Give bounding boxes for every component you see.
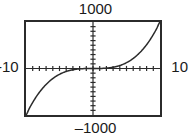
y-max-label: 1000 xyxy=(0,1,191,17)
plot-canvas xyxy=(26,22,160,115)
x-max-label: 10 xyxy=(171,59,188,75)
graphing-calculator-plot: 1000 -10 10 –1000 xyxy=(0,0,191,139)
y-min-label: –1000 xyxy=(0,120,191,136)
x-min-label: -10 xyxy=(0,59,19,75)
plot-frame xyxy=(24,20,162,117)
